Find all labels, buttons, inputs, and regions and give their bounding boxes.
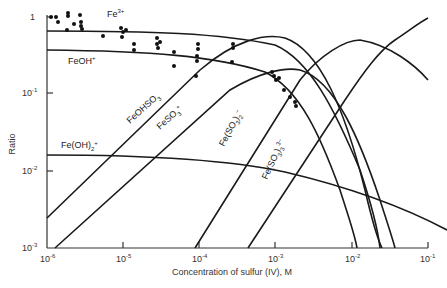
x-tick-1e-3: 10-3 bbox=[268, 253, 284, 264]
label-feso33: Fe(SO3)33− bbox=[260, 137, 289, 182]
y-tick-0.001: 10-3 bbox=[22, 242, 38, 253]
curves bbox=[47, 18, 447, 248]
label-feoh: FeOH+ bbox=[68, 55, 96, 66]
label-fe3: Fe3+ bbox=[107, 8, 125, 19]
x-tick-1e-4: 10-4 bbox=[192, 253, 208, 264]
x-tick-1e-2: 10-2 bbox=[345, 253, 361, 264]
curve-feso32 bbox=[195, 40, 428, 248]
y-tick-0.1: 10-1 bbox=[22, 87, 38, 98]
x-tick-1e-1: 10-1 bbox=[420, 253, 436, 264]
x-tick-1e-6: 10-6 bbox=[40, 253, 56, 264]
x-ticks: 10-6 10-5 10-4 10-3 10-2 10-1 bbox=[40, 242, 436, 264]
x-axis-label: Concentration of sulfur (IV), M bbox=[172, 267, 292, 277]
y-axis-label: Ratio bbox=[7, 133, 17, 154]
curve-feso33 bbox=[248, 18, 428, 248]
y-tick-0.01: 10-2 bbox=[22, 165, 38, 176]
label-feso32: Fe(SO3)2− bbox=[217, 108, 246, 149]
x-tick-1e-5: 10-5 bbox=[116, 253, 132, 264]
chart-svg: 1 10-1 10-2 10-3 10-6 10-5 10-4 10-3 10-… bbox=[0, 0, 447, 288]
label-feso3: FeSO3+ bbox=[155, 103, 186, 133]
y-tick-1: 1 bbox=[30, 12, 35, 22]
curve-feso3 bbox=[55, 69, 395, 248]
label-feoh2: Fe(OH)2+ bbox=[61, 140, 98, 152]
